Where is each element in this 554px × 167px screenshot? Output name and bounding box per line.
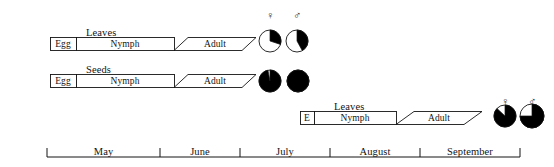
sex-ratio-pie-male <box>286 69 310 93</box>
lifecycle-bar: EggNymphAdult <box>50 74 260 89</box>
stage-label-nymph: Nymph <box>111 39 140 49</box>
sex-ratio-pie-female <box>258 69 282 93</box>
stage-label-nymph: Nymph <box>341 113 370 123</box>
axis-month-label: June <box>190 146 210 157</box>
sex-ratio-pie-male <box>519 103 545 129</box>
stage-label-egg: Egg <box>55 76 71 86</box>
axis-month-label: July <box>276 146 295 157</box>
sex-ratio-pie-male <box>285 29 309 53</box>
stage-label-adult: Adult <box>204 76 226 86</box>
lifecycle-bar: EggNymphAdult <box>50 37 260 52</box>
stage-label-adult: Adult <box>428 113 450 123</box>
axis-month-label: May <box>94 146 114 157</box>
stage-label-adult: Adult <box>204 39 226 49</box>
lifecycle-timeline-figure: LeavesEggNymphAdult♀♂SeedsEggNymphAdultL… <box>0 0 554 167</box>
axis-month-label: September <box>447 146 493 157</box>
female-symbol: ♀ <box>260 9 280 21</box>
month-axis: MayJuneJulyAugustSeptember <box>0 138 554 167</box>
lifecycle-bar: ENymphAdult <box>300 111 486 126</box>
stage-label-egg: Egg <box>55 39 71 49</box>
stage-label-nymph: Nymph <box>111 76 140 86</box>
axis-month-label: August <box>360 146 391 157</box>
sex-ratio-pie-female <box>493 104 517 128</box>
male-symbol: ♂ <box>287 9 307 21</box>
stage-label-egg: E <box>304 113 310 123</box>
sex-ratio-pie-female <box>258 29 282 53</box>
